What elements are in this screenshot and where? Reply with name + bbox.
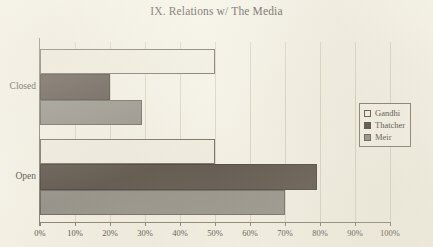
bar-gandhi-closed: [40, 49, 215, 74]
tick-mark-40%: [180, 222, 181, 226]
x-tick-label: 20%: [92, 228, 128, 238]
legend-swatch-open-square-icon: [364, 110, 371, 117]
x-tick-label: 90%: [337, 228, 373, 238]
tick-mark-30%: [145, 222, 146, 226]
legend-label: Meir: [375, 131, 392, 143]
tick-mark-50%: [215, 222, 216, 226]
tick-mark-60%: [250, 222, 251, 226]
legend-item-meir: Meir: [364, 131, 405, 143]
x-tick-label: 0%: [22, 228, 58, 238]
y-axis-line: [39, 38, 40, 226]
bar-thatcher-open: [40, 164, 317, 189]
category-label-closed: Closed: [0, 81, 36, 91]
gridline-90%: [355, 42, 356, 222]
x-tick-label: 40%: [162, 228, 198, 238]
category-label-open: Open: [0, 171, 36, 181]
x-tick-label: 50%: [197, 228, 233, 238]
gridline-80%: [320, 42, 321, 222]
legend-item-thatcher: Thatcher: [364, 119, 405, 131]
legend-label: Thatcher: [375, 119, 405, 131]
x-tick-label: 60%: [232, 228, 268, 238]
gridline-70%: [285, 42, 286, 222]
legend-item-gandhi: Gandhi: [364, 107, 405, 119]
legend-label: Gandhi: [375, 107, 400, 119]
x-tick-label: 10%: [57, 228, 93, 238]
x-tick-label: 100%: [372, 228, 408, 238]
tick-mark-70%: [285, 222, 286, 226]
bar-meir-closed: [40, 100, 142, 125]
tick-mark-20%: [110, 222, 111, 226]
x-tick-label: 30%: [127, 228, 163, 238]
plot-area: [40, 42, 390, 222]
legend-swatch-filled-square-icon: [364, 122, 371, 129]
tick-mark-100%: [390, 222, 391, 226]
legend: GandhiThatcherMeir: [359, 103, 411, 147]
chart-title: IX. Relations w/ The Media: [0, 5, 433, 17]
bar-meir-open: [40, 190, 285, 215]
tick-mark-10%: [75, 222, 76, 226]
x-tick-label: 80%: [302, 228, 338, 238]
tick-mark-90%: [355, 222, 356, 226]
bar-thatcher-closed: [40, 74, 110, 99]
legend-swatch-gray-square-icon: [364, 134, 371, 141]
tick-mark-0%: [40, 222, 41, 226]
bar-gandhi-open: [40, 139, 215, 164]
tick-mark-80%: [320, 222, 321, 226]
x-tick-label: 70%: [267, 228, 303, 238]
